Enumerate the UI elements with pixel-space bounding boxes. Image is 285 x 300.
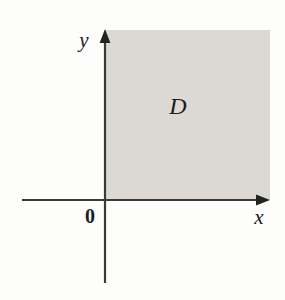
math-diagram: y x 0 D xyxy=(0,0,285,300)
coordinate-plane-svg: y x 0 D xyxy=(0,0,285,300)
y-axis-label: y xyxy=(77,28,89,52)
origin-label: 0 xyxy=(85,205,95,227)
x-axis-label: x xyxy=(253,205,264,229)
shaded-region-d xyxy=(105,30,270,200)
region-label-d: D xyxy=(168,93,186,119)
